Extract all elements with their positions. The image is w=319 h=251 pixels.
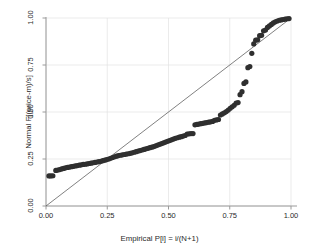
y-axis-title: Normal F[(price-m)/s] xyxy=(24,75,33,149)
x-tick-label: 0.50 xyxy=(161,211,176,220)
plot-svg xyxy=(8,5,311,245)
x-tick-label: 0.25 xyxy=(100,211,115,220)
y-axis-title-wrap: Normal F[(price-m)/s] xyxy=(22,18,34,206)
x-tick-label: 1.00 xyxy=(284,211,299,220)
data-points xyxy=(46,16,291,179)
x-tick-label: 0.75 xyxy=(222,211,237,220)
axis-lines xyxy=(46,17,297,206)
plot-canvas: 0.000.250.500.751.00 0.000.250.500.751.0… xyxy=(8,5,311,245)
x-axis-title: Empirical P[i] = i/(N+1) xyxy=(121,234,199,243)
qq-plot-figure: 0.000.250.500.751.00 0.000.250.500.751.0… xyxy=(0,0,319,251)
x-tick-label: 0.00 xyxy=(39,211,54,220)
